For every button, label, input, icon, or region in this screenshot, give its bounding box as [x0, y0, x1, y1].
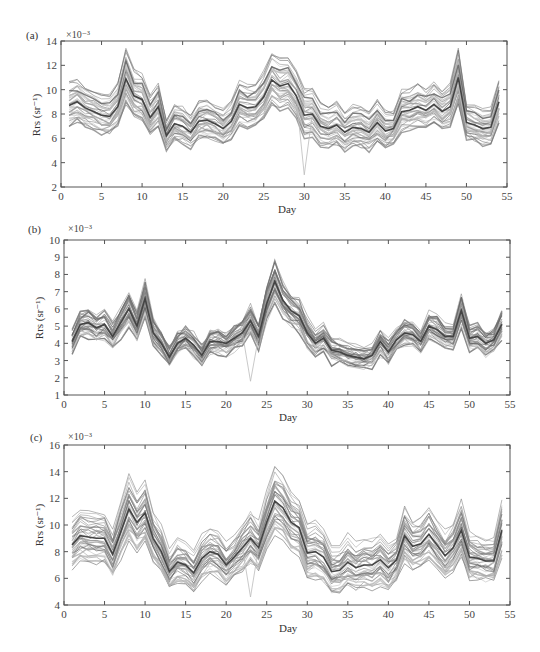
- x-tick-label: 0: [58, 190, 64, 202]
- panel-label: (a): [26, 29, 39, 42]
- x-axis-title: Day: [279, 622, 298, 634]
- x-tick-label: 25: [261, 398, 273, 410]
- y-tick-label: 4: [55, 337, 61, 349]
- x-tick-label: 25: [258, 190, 270, 202]
- y-tick-label: 16: [49, 439, 61, 451]
- x-tick-label: 50: [461, 190, 473, 202]
- x-tick-label: 40: [383, 608, 395, 620]
- panel-c: (c) ×10⁻³ 051015202530354045505546810121…: [30, 431, 516, 634]
- x-tick-label: 5: [102, 608, 108, 620]
- x-tick-label: 20: [218, 190, 230, 202]
- y-tick-label: 14: [49, 466, 61, 478]
- y-tick-label: 12: [49, 492, 60, 504]
- y-tick-label: 6: [52, 132, 58, 144]
- x-tick-label: 5: [99, 190, 105, 202]
- x-tick-label: 55: [505, 608, 517, 620]
- y-tick-label: 8: [55, 546, 61, 558]
- y-axis-title: Rrs (sr⁻¹): [33, 503, 46, 546]
- plot-area: 05101520253035404550552468101214: [46, 35, 513, 202]
- y-axis-title: Rrs (sr⁻¹): [33, 296, 46, 339]
- x-tick-label: 55: [505, 398, 517, 410]
- x-axis-title: Day: [279, 411, 298, 423]
- panel-label: (b): [28, 223, 41, 236]
- y-tick-label: 10: [46, 84, 58, 96]
- y-tick-label: 8: [55, 268, 61, 280]
- x-tick-label: 40: [383, 398, 395, 410]
- x-tick-label: 20: [221, 608, 233, 620]
- y-multiplier: ×10⁻³: [66, 29, 90, 40]
- x-tick-label: 10: [137, 190, 149, 202]
- panel-b: (b) ×10⁻³ 051015202530354045505512345678…: [28, 223, 516, 423]
- figure: (a) ×10⁻³ 051015202530354045505524681012…: [0, 0, 540, 652]
- x-tick-label: 0: [61, 398, 67, 410]
- x-tick-label: 20: [221, 398, 233, 410]
- y-tick-label: 10: [49, 234, 61, 246]
- x-tick-label: 10: [140, 398, 152, 410]
- y-tick-label: 6: [55, 572, 61, 584]
- panel-a: (a) ×10⁻³ 051015202530354045505524681012…: [26, 29, 513, 215]
- x-tick-label: 15: [180, 608, 192, 620]
- data-lines: [72, 261, 502, 382]
- x-tick-label: 55: [502, 190, 514, 202]
- y-tick-label: 9: [55, 251, 61, 263]
- x-tick-label: 5: [102, 398, 108, 410]
- x-axis-title: Day: [278, 203, 297, 215]
- x-tick-label: 50: [464, 608, 476, 620]
- x-tick-label: 10: [140, 608, 152, 620]
- y-tick-label: 4: [55, 599, 61, 611]
- x-tick-label: 25: [261, 608, 273, 620]
- x-tick-label: 35: [339, 190, 351, 202]
- y-tick-label: 14: [46, 35, 58, 47]
- y-multiplier: ×10⁻³: [68, 223, 92, 234]
- y-tick-label: 5: [55, 320, 61, 332]
- data-lines: [72, 466, 502, 597]
- panel-label: (c): [30, 431, 43, 444]
- x-tick-label: 15: [177, 190, 189, 202]
- x-tick-label: 50: [464, 398, 476, 410]
- plot-area: 051015202530354045505546810121416: [49, 439, 516, 620]
- x-tick-label: 30: [299, 190, 311, 202]
- y-tick-label: 1: [55, 389, 61, 401]
- y-tick-label: 6: [55, 303, 61, 315]
- y-multiplier: ×10⁻³: [68, 431, 92, 442]
- x-tick-label: 30: [302, 608, 314, 620]
- x-tick-label: 40: [380, 190, 392, 202]
- plot-area: 051015202530354045505512345678910: [49, 234, 516, 410]
- x-tick-label: 15: [180, 398, 192, 410]
- y-tick-label: 3: [55, 355, 61, 367]
- x-tick-label: 45: [423, 398, 435, 410]
- y-tick-label: 2: [55, 372, 61, 384]
- x-tick-label: 35: [342, 398, 354, 410]
- x-tick-label: 35: [342, 608, 354, 620]
- x-tick-label: 0: [61, 608, 67, 620]
- y-tick-label: 10: [49, 519, 61, 531]
- y-tick-label: 2: [52, 181, 58, 193]
- y-tick-label: 12: [46, 59, 57, 71]
- x-tick-label: 30: [302, 398, 314, 410]
- y-axis-title: Rrs (sr⁻¹): [30, 93, 43, 136]
- x-tick-label: 45: [420, 190, 432, 202]
- y-tick-label: 7: [55, 286, 61, 298]
- x-tick-label: 45: [423, 608, 435, 620]
- data-lines: [69, 48, 499, 175]
- y-tick-label: 8: [52, 108, 58, 120]
- y-tick-label: 4: [52, 157, 58, 169]
